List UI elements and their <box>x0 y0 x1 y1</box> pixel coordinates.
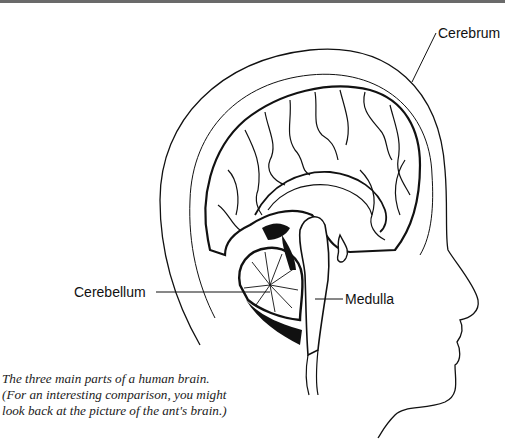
caption-line-1: The three main parts of a human brain. <box>2 371 227 387</box>
cerebellum-label: Cerebellum <box>74 284 146 300</box>
cerebrum-leader <box>412 33 436 82</box>
brainstem <box>300 217 329 355</box>
caption-line-3: look back at the picture of the ant's br… <box>2 403 227 419</box>
figure-caption: The three main parts of a human brain. (… <box>2 371 227 419</box>
cerebrum-label: Cerebrum <box>438 25 500 41</box>
medulla-label: Medulla <box>345 291 394 307</box>
caption-line-2: (For an interesting comparison, you migh… <box>2 387 227 403</box>
